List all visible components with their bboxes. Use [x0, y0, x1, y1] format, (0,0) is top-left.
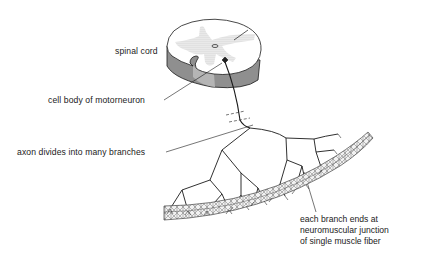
muscle-fibers: [164, 132, 373, 220]
label-cell-body: cell body of motorneuron: [48, 96, 145, 105]
spinal-cord: [167, 19, 261, 87]
label-branch-ends: each branch ends at neuromuscular juncti…: [300, 214, 389, 247]
label-branch-ends-line-1: each branch ends at: [300, 214, 389, 225]
label-branch-ends-line-2: neuromuscular junction: [300, 225, 389, 236]
label-axon-divides: axon divides into many branches: [17, 148, 145, 157]
label-branch-ends-line-3: of single muscle fiber: [300, 236, 389, 247]
label-spinal-cord: spinal cord: [115, 47, 158, 56]
